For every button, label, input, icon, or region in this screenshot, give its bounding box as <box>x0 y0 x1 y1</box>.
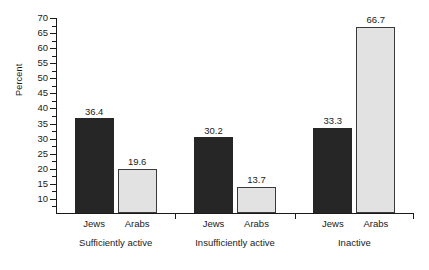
bar-chart: Percent 10152025303540455055606570 36.41… <box>0 0 429 270</box>
y-tick-minor <box>52 206 56 207</box>
bar-value-label: 66.7 <box>367 15 386 25</box>
y-tick-minor <box>52 161 56 162</box>
y-tick-mark <box>50 93 56 94</box>
y-tick-label: 25 <box>37 149 48 159</box>
y-tick-label: 70 <box>37 13 48 23</box>
y-tick-minor <box>52 116 56 117</box>
bar-value-label: 36.4 <box>85 107 104 117</box>
y-tick-minor <box>52 176 56 177</box>
y-tick-label: 50 <box>37 74 48 84</box>
bar-jews-0: 36.4 <box>75 118 114 213</box>
series-label-jews: Jews <box>203 219 225 229</box>
y-tick-minor <box>52 101 56 102</box>
series-label-arabs: Arabs <box>125 219 150 229</box>
series-label-jews: Jews <box>83 219 105 229</box>
y-tick-minor <box>52 41 56 42</box>
series-label-arabs: Arabs <box>244 219 269 229</box>
x-axis-end-tick <box>413 213 414 219</box>
y-tick-mark <box>50 78 56 79</box>
y-tick-label: 45 <box>37 89 48 99</box>
y-tick-label: 20 <box>37 164 48 174</box>
y-tick-minor <box>52 71 56 72</box>
bar-arabs-0: 19.6 <box>118 169 157 213</box>
y-tick-mark <box>50 108 56 109</box>
y-tick-minor <box>52 86 56 87</box>
y-tick-minor <box>52 26 56 27</box>
y-tick-mark <box>50 33 56 34</box>
x-axis-line <box>56 213 414 214</box>
y-tick-mark <box>50 184 56 185</box>
group-label: Insufficiently active <box>195 238 275 248</box>
y-tick-mark <box>50 199 56 200</box>
bar-arabs-1: 13.7 <box>237 187 276 213</box>
bar-value-label: 33.3 <box>324 116 343 126</box>
plot-area: 10152025303540455055606570 36.419.630.21… <box>56 18 414 214</box>
series-label-arabs: Arabs <box>363 219 388 229</box>
y-tick-mark <box>50 154 56 155</box>
x-axis-separator <box>295 213 296 219</box>
y-tick-minor <box>52 56 56 57</box>
group-label: Inactive <box>338 238 371 248</box>
y-tick-label: 35 <box>37 119 48 129</box>
bar-value-label: 30.2 <box>204 126 223 136</box>
series-label-jews: Jews <box>322 219 344 229</box>
group-label: Sufficiently active <box>79 238 152 248</box>
y-tick-mark <box>50 139 56 140</box>
y-tick-label: 60 <box>37 43 48 53</box>
y-tick-minor <box>52 146 56 147</box>
y-tick-mark <box>50 48 56 49</box>
y-tick-label: 65 <box>37 28 48 38</box>
y-tick-label: 40 <box>37 104 48 114</box>
y-tick-mark <box>50 63 56 64</box>
bar-value-label: 19.6 <box>128 157 147 167</box>
y-tick-mark <box>50 124 56 125</box>
y-tick-label: 15 <box>37 179 48 189</box>
y-tick-mark <box>50 169 56 170</box>
y-tick-mark <box>50 18 56 19</box>
y-tick-label: 55 <box>37 58 48 68</box>
y-tick-minor <box>52 131 56 132</box>
y-tick-label: 10 <box>37 194 48 204</box>
y-axis-line <box>56 18 57 214</box>
y-tick-minor <box>52 191 56 192</box>
y-axis-title: Percent <box>14 36 24 96</box>
y-tick-label: 30 <box>37 134 48 144</box>
bar-value-label: 13.7 <box>247 175 266 185</box>
bar-jews-1: 30.2 <box>194 137 233 213</box>
bar-arabs-2: 66.7 <box>356 27 395 213</box>
bar-jews-2: 33.3 <box>313 128 352 213</box>
x-axis-separator <box>175 213 176 219</box>
